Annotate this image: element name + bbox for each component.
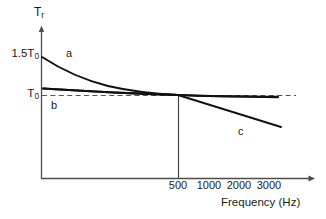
y-axis-title-subscript: r xyxy=(41,10,44,20)
y-axis-title: Tr xyxy=(34,6,44,20)
y-value-label-1-5t0-subscript: 0 xyxy=(34,52,39,61)
curve-c xyxy=(43,89,281,128)
x-axis-title: Frequency (Hz) xyxy=(221,197,300,209)
y-value-label-t0-subscript: 0 xyxy=(34,92,39,101)
y-value-label-1-5t0-main: 1.5T xyxy=(11,47,34,59)
y-value-label-t0: T0 xyxy=(0,88,39,102)
curve-label-a: a xyxy=(66,48,72,59)
chart-figure: Tr 1.5T0 T0 a b c 500 1000 2000 3000 Fre… xyxy=(0,0,326,219)
curve-label-c: c xyxy=(238,126,244,137)
x-axis-arrow-icon xyxy=(309,176,316,182)
y-axis xyxy=(39,26,44,179)
y-axis-arrow-icon xyxy=(39,26,44,33)
curve-label-b: b xyxy=(51,100,57,111)
x-tick-label-3000: 3000 xyxy=(250,180,288,191)
y-value-label-1-5t0: 1.5T0 xyxy=(0,48,39,62)
